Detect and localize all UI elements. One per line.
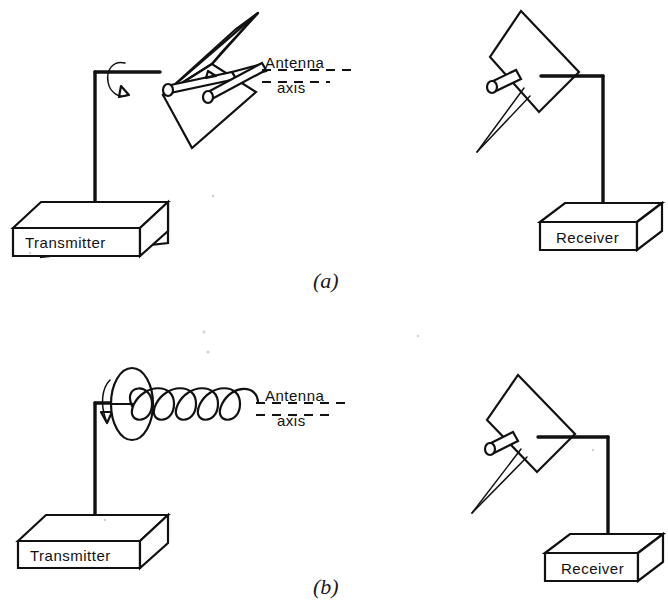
dipole-end-cap-left-a — [163, 84, 173, 96]
dipole-end-cap-mid-a — [203, 91, 213, 103]
receiver-label-b: Receiver — [561, 560, 624, 577]
antenna-axis-label-line2-a: axis — [277, 79, 306, 96]
transmitter-label-b: Transmitter — [30, 547, 111, 564]
receive-reflector-b — [487, 375, 575, 472]
receive-dipole-cap-a — [487, 81, 497, 93]
antenna-axis-label-line1-a: Antenna — [265, 54, 325, 71]
panel-letter-a: (a) — [313, 268, 339, 293]
receive-reflector-face-a — [490, 11, 579, 112]
receive-dipole-cap-b — [485, 443, 495, 455]
reflector-upper-edge-right-a — [212, 13, 258, 64]
receive-dipole-rod-upper-a — [477, 96, 530, 152]
receive-reflector-face-b — [487, 375, 575, 472]
rotation-arrowhead-a — [119, 86, 129, 97]
scan-speck — [203, 331, 206, 334]
rotation-arrow-a — [108, 62, 129, 97]
rotation-arrowhead-b — [101, 412, 112, 423]
scan-speck — [206, 350, 209, 353]
receive-reflector-a — [490, 11, 579, 112]
figure-root: Antenna axis Transmitter Receiver (a) An… — [0, 0, 668, 606]
rotation-arc-a — [108, 62, 127, 96]
panel-b-group — [18, 368, 663, 581]
receive-dipole-rod-lower-a — [477, 88, 524, 152]
scan-speck — [104, 519, 106, 521]
rotation-arc-b — [103, 380, 110, 420]
scan-speck — [592, 449, 594, 451]
panel-a-group — [13, 11, 662, 257]
transmitter-label-a: Transmitter — [25, 234, 106, 251]
scan-speck — [212, 195, 215, 198]
antenna-axis-label-line2-b: axis — [277, 412, 306, 429]
receive-dipole-rod-upper-b — [472, 457, 527, 513]
receive-dipole-rod-lower-b — [472, 449, 521, 513]
scan-speck — [417, 335, 419, 337]
receiver-label-a: Receiver — [556, 229, 619, 246]
antenna-polarization-figure: Antenna axis Transmitter Receiver (a) An… — [0, 0, 668, 606]
scan-speck — [29, 252, 31, 254]
antenna-axis-label-line1-b: Antenna — [265, 387, 325, 404]
panel-letter-b: (b) — [313, 574, 339, 599]
